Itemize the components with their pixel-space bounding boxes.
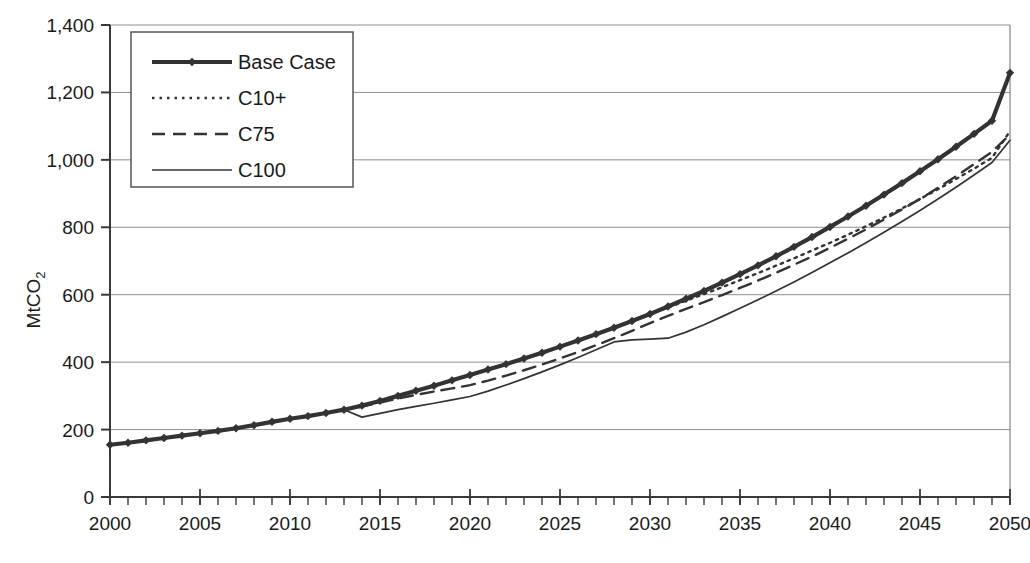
x-tick-label: 2030 (629, 513, 671, 534)
y-tick-label: 1,000 (46, 150, 94, 171)
legend-item-label: C100 (238, 159, 286, 181)
x-axis-tick-labels: 2000200520102015202020252030203520402045… (89, 513, 1030, 534)
x-tick-label: 2010 (269, 513, 311, 534)
y-axis-title-subscript: 2 (33, 272, 48, 279)
svg-text:MtCO2: MtCO2 (23, 272, 48, 329)
x-tick-label: 2040 (809, 513, 851, 534)
legend-item-label: Base Case (238, 51, 336, 73)
y-tick-label: 400 (62, 352, 94, 373)
y-tick-label: 600 (62, 285, 94, 306)
x-tick-label: 2000 (89, 513, 131, 534)
chart-container: 02004006008001,0001,2001,400 20002005201… (0, 0, 1030, 563)
y-axis-tick-labels: 02004006008001,0001,2001,400 (46, 15, 94, 508)
y-tick-label: 200 (62, 420, 94, 441)
y-tick-label: 1,400 (46, 15, 94, 36)
x-tick-label: 2035 (719, 513, 761, 534)
y-tick-label: 0 (83, 487, 94, 508)
legend-item-label: C10+ (238, 87, 286, 109)
legend-item-label: C75 (238, 123, 275, 145)
y-tick-label: 1,200 (46, 82, 94, 103)
x-tick-label: 2025 (539, 513, 581, 534)
y-axis-title: MtCO2 (23, 272, 48, 329)
y-axis-title-text: MtCO (23, 279, 44, 329)
x-tick-label: 2050 (989, 513, 1030, 534)
y-axis-ticks (101, 25, 110, 497)
y-tick-label: 800 (62, 217, 94, 238)
x-tick-label: 2015 (359, 513, 401, 534)
legend: Base CaseC10+C75C100 (131, 32, 353, 187)
x-tick-label: 2020 (449, 513, 491, 534)
line-chart: 02004006008001,0001,2001,400 20002005201… (0, 0, 1030, 563)
x-tick-label: 2005 (179, 513, 221, 534)
x-tick-label: 2045 (899, 513, 941, 534)
